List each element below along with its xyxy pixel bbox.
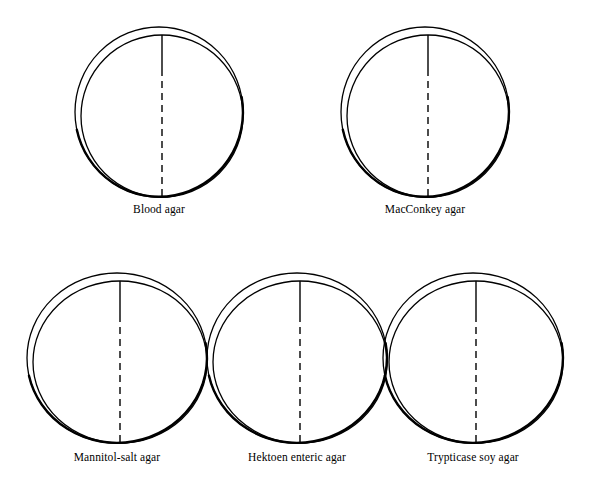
dish-label-hektoen-enteric-agar: Hektoen enteric agar xyxy=(248,452,346,464)
petri-dish-macconkey-agar xyxy=(333,19,520,209)
dish-label-trypticase-soy-agar: Trypticase soy agar xyxy=(427,452,519,464)
dish-label-mannitol-salt-agar: Mannitol-salt agar xyxy=(74,452,160,464)
petri-dish-blood-agar xyxy=(67,19,254,209)
petri-dish-hektoen-enteric-agar xyxy=(199,265,398,455)
petri-dish-trypticase-soy-agar xyxy=(375,265,574,455)
dish-label-macconkey-agar: MacConkey agar xyxy=(385,204,465,216)
petri-dish-mannitol-salt-agar xyxy=(19,265,218,455)
dish-label-blood-agar: Blood agar xyxy=(133,204,185,216)
agar-plate-figure: Blood agarMacConkey agarMannitol-salt ag… xyxy=(0,0,589,490)
